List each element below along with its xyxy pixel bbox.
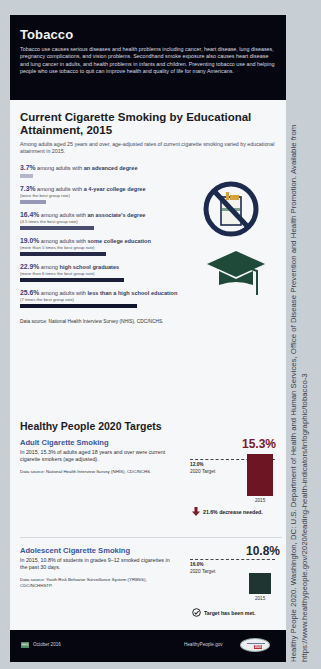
education-section: Current Cigarette Smoking by Educational… [20,111,282,324]
no-smoking-icon [201,179,261,239]
row-note: (more than 6 times the best group rate) [20,271,200,276]
education-row: 16.4% among adults with an associate's d… [20,211,200,230]
citation: Healthy People 2020. Washington, DC: U.S… [288,12,318,662]
education-row: 22.9% among high school graduates (more … [20,263,200,282]
row-note: (7 times the best group rate) [20,297,200,302]
logo-stripe [247,643,265,644]
header-banner: Tobacco Tobacco use causes serious disea… [10,15,286,100]
citation-url[interactable]: https://www.healthypeople.gov/2020/leadi… [299,12,310,662]
target-status: Target has been met. [192,608,256,617]
education-source: Data source: National Health Interview S… [20,319,282,324]
education-title: Current Cigarette Smoking by Educational… [20,111,282,137]
row-bar [20,174,33,178]
target-adult: Adult Cigarette Smoking In 2015, 15.3% o… [20,438,282,533]
footer: HHS October 2016 HealthyPeople.gov 2020 [10,630,286,662]
row-group: a 4-year college degree [84,186,146,192]
graduation-cap-icon [205,249,267,301]
target-line [190,559,275,560]
row-value: 25.6% [20,289,39,296]
page-title: Tobacco [20,27,276,42]
row-prefix: among adults with [41,290,88,296]
row-bar [20,252,106,256]
target-value: 15.3% [242,437,276,451]
target-source: Data source: Youth Risk Behavior Surveil… [20,577,170,589]
target-value: 10.8% [246,544,280,558]
row-group: an associate's degree [87,212,145,218]
education-row: 7.3% among adults with a 4-year college … [20,185,200,204]
education-row: 19.0% among adults with some college edu… [20,237,200,256]
education-row: 3.7% among adults with an advanced degre… [20,164,200,178]
footer-site-link[interactable]: HealthyPeople.gov [184,642,223,648]
target-goal-value: 12.0% [190,462,204,467]
targets-title: Healthy People 2020 Targets [20,420,282,433]
row-note: (4.5 times the best group rate) [20,219,200,224]
target-goal-label: 2020 Target [190,469,215,474]
row-bar [20,200,46,204]
target-description: In 2015, 10.8% of students in grades 9–1… [20,557,170,571]
row-note: (more than 5 times the best group rate) [20,245,200,250]
target-bar [249,573,271,594]
divider [20,537,282,538]
footer-date: October 2016 [33,642,61,648]
target-status-text: 21.6% decrease needed. [203,509,263,515]
row-prefix: among [41,264,60,270]
hhs-logo: HHS [21,642,29,648]
target-name: Adolescent Cigarette Smoking [20,546,282,555]
target-description: In 2015, 15.3% of adults aged 18 years a… [20,449,170,463]
row-prefix: among adults with [41,238,88,244]
target-year: 2015 [255,498,265,503]
row-value: 19.0% [20,237,39,244]
checkmark-circle-icon [192,608,201,617]
education-subtitle: Among adults aged 25 years and over, age… [20,141,282,155]
row-prefix: among adults with [41,212,88,218]
target-status: 21.6% decrease needed. [192,507,263,516]
row-value: 16.4% [20,211,39,218]
row-note: (twice the best group rate) [20,193,200,198]
education-row: 25.6% among adults with less than a high… [20,289,200,308]
target-goal-value: 16.0% [190,562,204,567]
targets-section: Healthy People 2020 Targets Adult Cigare… [20,420,282,641]
target-status-text: Target has been met. [204,610,256,616]
target-adolescent: Adolescent Cigarette Smoking In 2015, 10… [20,546,282,641]
target-goal-label: 2020 Target [190,569,215,574]
arrow-down-icon [192,507,200,516]
row-value: 22.9% [20,263,39,270]
intro-text: Tobacco use causes serious diseases and … [20,46,276,76]
row-group: less than a high school education [87,290,177,296]
row-value: 3.7% [20,164,36,171]
target-year: 2015 [255,596,265,601]
row-group: some college education [87,238,150,244]
row-prefix: among adults with [37,165,84,171]
target-source: Data source: National Health Interview S… [20,469,170,475]
infographic-card: Tobacco Tobacco use causes serious disea… [10,15,286,662]
row-bar [20,278,124,282]
row-bar [20,304,137,308]
row-bar [20,226,94,230]
target-bar [247,454,273,496]
citation-text: Healthy People 2020. Washington, DC: U.S… [288,12,299,662]
row-group: an advanced degree [84,165,138,171]
row-value: 7.3% [20,185,36,192]
logo-year: 2020 [254,645,262,649]
healthy-people-logo: 2020 [240,638,270,652]
row-prefix: among adults with [37,186,84,192]
row-group: high school graduates [60,264,120,270]
education-rows: 3.7% among adults with an advanced degre… [20,164,200,308]
